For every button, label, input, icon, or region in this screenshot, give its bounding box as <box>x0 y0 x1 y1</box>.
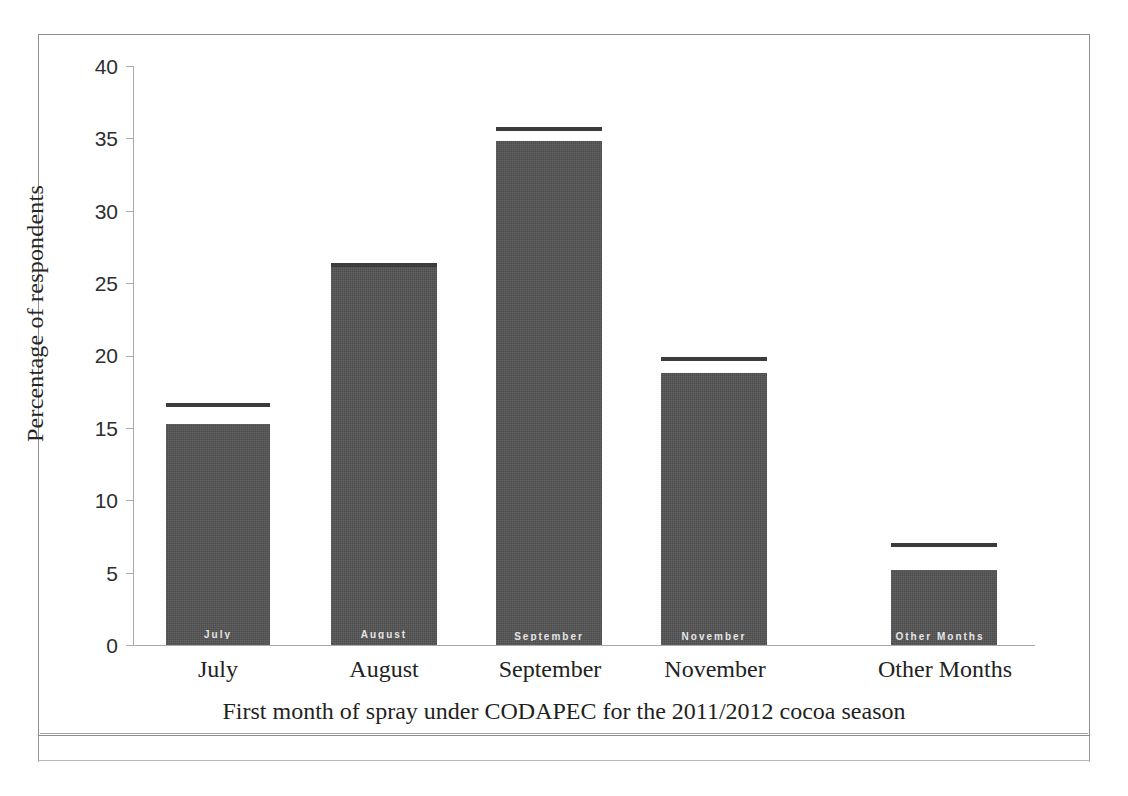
y-tick-label-30: 30 <box>95 201 118 222</box>
y-axis-title: Percentage of respondents <box>22 54 49 574</box>
bar-ghost-label-november: November <box>663 632 765 641</box>
y-tick-label-15: 15 <box>95 418 118 439</box>
bar-july[interactable] <box>166 424 270 645</box>
x-tick-label-september: September <box>472 655 628 683</box>
bar-cap-november <box>661 357 767 361</box>
bar-cap-july <box>166 403 270 407</box>
x-axis-title: First month of spray under CODAPEC for t… <box>38 697 1090 725</box>
bar-ghost-label-july: July <box>168 630 268 639</box>
y-tick-label-20: 20 <box>95 345 118 366</box>
x-tick-label-august: August <box>312 655 456 683</box>
x-axis-title-rule <box>40 733 1088 734</box>
figure: 40 35 30 25 20 15 10 5 0 Percentage of r… <box>0 0 1128 796</box>
y-tick-40 <box>126 66 134 67</box>
bar-september[interactable] <box>496 141 602 645</box>
x-tick-label-other-months: Other Months <box>850 655 1040 683</box>
x-tick-label-november: November <box>640 655 790 683</box>
y-tick-5 <box>126 573 134 574</box>
y-tick-15 <box>126 428 134 429</box>
bar-august[interactable] <box>331 267 437 645</box>
y-tick-10 <box>126 500 134 501</box>
y-tick-label-10: 10 <box>95 490 118 511</box>
y-tick-label-40: 40 <box>95 56 118 77</box>
bar-cap-august <box>331 263 437 267</box>
frame-bottom-rule <box>38 760 1090 761</box>
bar-cap-september <box>496 127 602 131</box>
y-axis-tick-labels: 40 35 30 25 20 15 10 5 0 <box>0 0 118 720</box>
y-tick-label-35: 35 <box>95 128 118 149</box>
bar-ghost-label-august: August <box>333 630 435 639</box>
y-tick-label-25: 25 <box>95 273 118 294</box>
y-tick-label-0: 0 <box>106 635 118 656</box>
bar-november[interactable] <box>661 373 767 645</box>
frame-left-tail <box>38 736 39 762</box>
y-tick-label-5: 5 <box>106 563 118 584</box>
x-tick-label-july: July <box>150 655 286 683</box>
y-tick-30 <box>126 211 134 212</box>
bar-ghost-label-other-months: Other Months <box>860 632 1020 641</box>
bar-cap-other-months <box>891 543 997 547</box>
y-tick-20 <box>126 356 134 357</box>
y-tick-35 <box>126 138 134 139</box>
x-axis-line <box>133 645 1035 646</box>
frame-right-tail <box>1089 736 1090 762</box>
y-tick-25 <box>126 283 134 284</box>
bar-ghost-label-september: September <box>498 632 600 641</box>
